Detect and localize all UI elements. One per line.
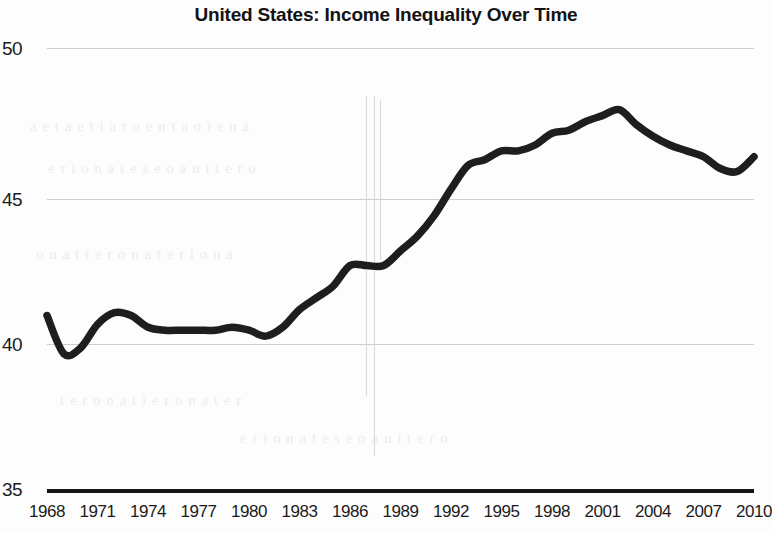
plot-area: 50 45 40 35 1968197119741977198019831986… — [0, 0, 772, 533]
series-line-gini — [0, 0, 772, 533]
chart-container: a e t a e t i a r o e n t a o i e n a e … — [0, 0, 772, 533]
